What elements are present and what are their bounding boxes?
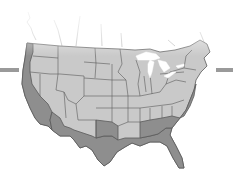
us-map — [0, 0, 233, 180]
top-fade — [0, 0, 233, 56]
